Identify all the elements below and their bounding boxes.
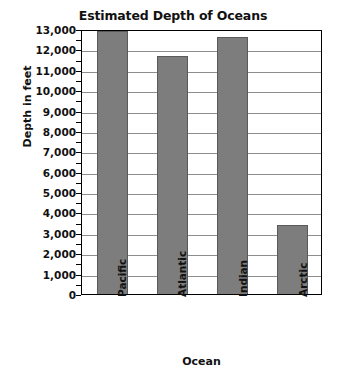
y-axis-tick-label: 3,000 [14,228,76,240]
y-axis-tick-label: 2,000 [14,248,76,260]
y-axis-tick-label: 11,000 [14,65,76,77]
y-axis-tick-label: 8,000 [14,126,76,138]
y-axis-tick-labels: 13,00012,00011,00010,0009,0008,0007,0006… [10,30,76,295]
y-axis-tick-label: 9,000 [14,106,76,118]
y-axis-tick-label: 4,000 [14,207,76,219]
y-axis-tick-label: 10,000 [14,85,76,97]
y-axis-tick-label: 13,000 [14,24,76,36]
y-axis-tick-label: 6,000 [14,167,76,179]
y-axis-tick-label: 1,000 [14,269,76,281]
x-axis-tick-label: Atlantic [176,241,188,297]
x-axis-tick-label: Arctic [297,241,309,297]
x-axis-tick-label: Indian [237,241,249,297]
x-axis-label: Ocean [81,355,322,368]
y-axis-tick-label: 5,000 [14,187,76,199]
y-axis-tick-label: 7,000 [14,146,76,158]
x-axis-tick-label: Pacific [116,241,128,297]
chart-title: Estimated Depth of Oceans [0,8,346,23]
y-axis-tick-label: 0 [14,289,76,301]
bar-chart: Estimated Depth of Oceans Depth in feet … [0,0,346,376]
y-axis-tick-label: 12,000 [14,44,76,56]
x-axis-tick-labels: PacificAtlanticIndianArctic [81,297,322,353]
y-axis-major-tick [76,295,81,296]
